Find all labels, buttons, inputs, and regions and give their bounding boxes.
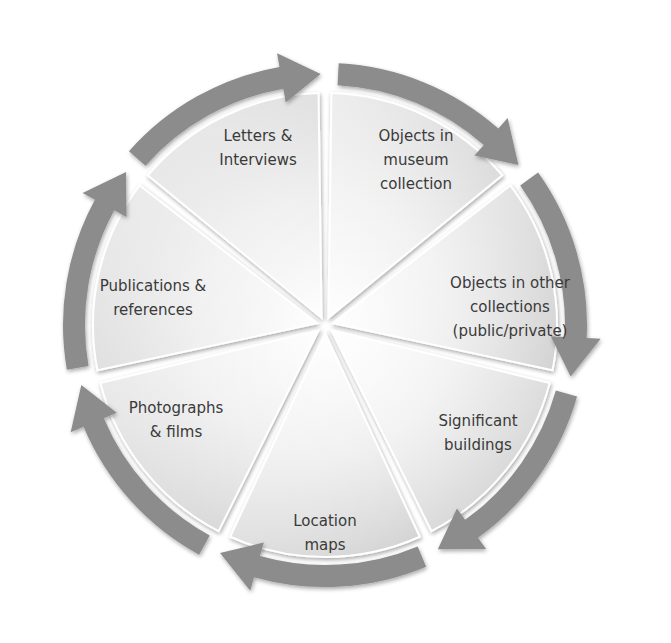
segment-label-location-maps: Location maps [293,509,356,557]
segment-label-buildings: Significant buildings [438,409,517,457]
segment-label-publications: Publications & references [100,274,207,322]
segment-label-photographs: Photographs & films [129,396,224,444]
segment-label-other-collections: Objects in other collections (public/pri… [450,271,570,343]
segment-label-letters: Letters & Interviews [219,124,297,172]
segment-label-museum: Objects in museum collection [378,124,453,196]
